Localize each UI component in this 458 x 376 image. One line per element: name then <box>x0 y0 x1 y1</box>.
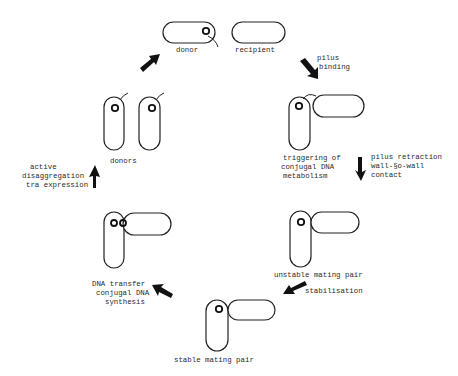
recipient-cell <box>232 22 285 43</box>
step-dna-transfer: DNA transfer conjugal DNA synthesis <box>92 280 173 306</box>
pilus-icon <box>156 93 164 100</box>
stage-stable-pair: stable mating pair <box>174 300 275 364</box>
arrow-icon <box>300 58 318 79</box>
pilus-icon <box>120 93 128 100</box>
donor-label: donor <box>176 46 198 54</box>
stage-donor-recipient: donor recipient <box>163 22 285 54</box>
conjugation-diagram: donor recipient pilus binding triggering… <box>0 0 458 376</box>
arrow-icon <box>140 54 160 72</box>
caption-line: contact <box>371 171 402 179</box>
step-return <box>140 54 160 72</box>
recipient-cell <box>228 300 275 320</box>
caption-line: pilus <box>317 54 339 62</box>
caption-line: metabolism <box>283 172 328 180</box>
caption-line: pilus retraction <box>371 153 442 161</box>
step-disaggregation: active disaggregation tra expression <box>22 163 100 189</box>
caption-line: DNA transfer <box>92 280 145 288</box>
caption-line: disaggregation <box>22 172 84 180</box>
donor-cell <box>289 97 310 150</box>
caption-line: triggering of <box>283 154 341 162</box>
recipient-label: recipient <box>235 46 275 54</box>
caption-line: tra expression <box>26 181 88 189</box>
stage-donors: donors <box>104 93 164 165</box>
caption-line: conjugal DNA <box>96 289 150 297</box>
donor-cell <box>163 22 215 43</box>
arrow-icon <box>355 157 366 181</box>
caption-line: conjugal DNA <box>281 163 335 171</box>
caption-line: wall-§o-wall <box>371 162 425 170</box>
caption-line: stable mating pair <box>174 356 254 364</box>
step-pilus-retraction: pilus retraction wall-§o-wall contact <box>355 153 442 181</box>
caption-line: synthesis <box>105 298 145 306</box>
caption-line: binding <box>319 63 350 71</box>
stage-triggering: triggering of conjugal DNA metabolism <box>281 95 364 180</box>
caption-line: unstable mating pair <box>274 271 363 279</box>
step-pilus-binding: pilus binding <box>300 54 350 79</box>
arrow-icon <box>283 281 307 294</box>
caption-line: active <box>30 163 57 171</box>
arrow-icon <box>152 284 173 298</box>
step-stabilisation: stabilisation <box>283 281 363 295</box>
stage-transfer-pair <box>104 212 171 268</box>
caption-line: donors <box>110 157 137 165</box>
arrow-icon <box>89 165 100 188</box>
recipient-cell <box>123 213 171 235</box>
recipient-cell <box>311 212 359 233</box>
recipient-cell <box>313 95 364 117</box>
stage-unstable-pair: unstable mating pair <box>274 211 363 279</box>
caption-line: stabilisation <box>305 287 363 295</box>
